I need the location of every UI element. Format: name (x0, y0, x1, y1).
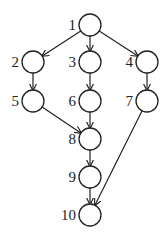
node-circle (79, 204, 101, 226)
node-label: 4 (126, 54, 134, 70)
node-3: 3 (69, 51, 102, 73)
node-7: 7 (126, 90, 159, 112)
node-label: 9 (69, 169, 77, 185)
node-6: 6 (69, 90, 102, 112)
edge-1-to-2 (42, 31, 81, 56)
node-label: 6 (69, 93, 77, 109)
node-label: 2 (12, 54, 20, 70)
node-9: 9 (69, 166, 102, 188)
node-label: 3 (69, 54, 77, 70)
node-circle (79, 128, 101, 150)
node-label: 5 (12, 93, 20, 109)
node-2: 2 (12, 51, 45, 73)
node-4: 4 (126, 51, 159, 73)
node-circle (79, 90, 101, 112)
nodes-layer: 12345678910 (12, 14, 159, 226)
node-circle (136, 90, 158, 112)
node-10: 10 (61, 204, 101, 226)
node-circle (79, 14, 101, 36)
node-circle (22, 90, 44, 112)
node-circle (22, 51, 44, 73)
node-5: 5 (12, 90, 45, 112)
node-circle (79, 51, 101, 73)
node-circle (79, 166, 101, 188)
graph-canvas: 12345678910 (0, 0, 167, 239)
edge-5-to-8 (42, 107, 81, 133)
node-label: 7 (126, 93, 134, 109)
node-circle (136, 51, 158, 73)
edge-1-to-4 (99, 31, 138, 56)
edge-7-to-10 (95, 111, 142, 205)
node-label: 10 (61, 207, 76, 223)
node-8: 8 (69, 128, 102, 150)
node-label: 1 (69, 17, 77, 33)
node-label: 8 (69, 131, 77, 147)
node-1: 1 (69, 14, 102, 36)
